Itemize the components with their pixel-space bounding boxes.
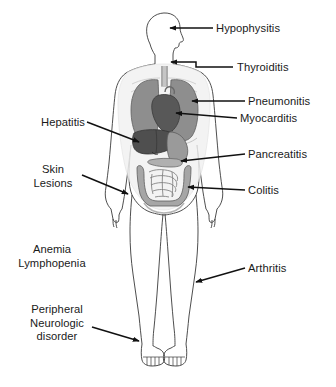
- label-hepatitis: Hepatitis: [30, 116, 85, 130]
- label-thyroiditis: Thyroiditis: [237, 61, 289, 75]
- label-arthritis: Arthritis: [248, 262, 286, 276]
- label-pancreatitis: Pancreatitis: [248, 148, 307, 162]
- leader-arthritis: [196, 268, 245, 282]
- leader-colitis: [188, 187, 245, 190]
- label-anemia-lymphopenia: Anemia Lymphopenia: [12, 243, 92, 270]
- label-colitis: Colitis: [248, 184, 279, 198]
- label-hypophysitis: Hypophysitis: [216, 22, 280, 36]
- figure-canvas: Hypophysitis Thyroiditis Pneumonitis Myo…: [0, 0, 336, 387]
- label-pneumonitis: Pneumonitis: [248, 95, 310, 109]
- trachea: [161, 66, 168, 87]
- label-peripheral-neurologic-disorder: Peripheral Neurologic disorder: [22, 303, 92, 344]
- leader-peripheral-neurologic: [92, 327, 139, 341]
- label-skin-lesions: Skin Lesions: [24, 163, 82, 190]
- label-myocarditis: Myocarditis: [240, 112, 297, 126]
